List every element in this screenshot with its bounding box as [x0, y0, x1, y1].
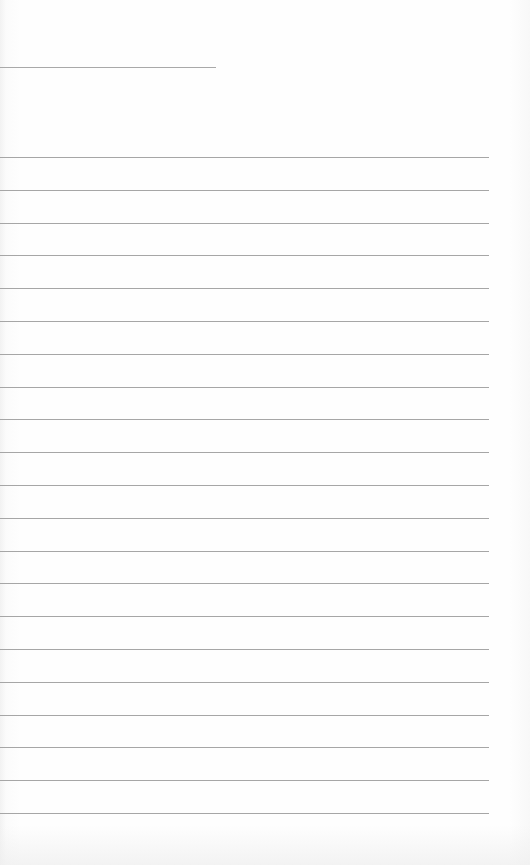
- ruled-line: [0, 288, 489, 289]
- ruled-line: [0, 255, 489, 256]
- ruled-line: [0, 452, 489, 453]
- ruled-line: [0, 747, 489, 748]
- ruled-line: [0, 157, 489, 158]
- ruled-line: [0, 780, 489, 781]
- ruled-line: [0, 583, 489, 584]
- ruled-line: [0, 551, 489, 552]
- ruled-line: [0, 616, 489, 617]
- ruled-line: [0, 682, 489, 683]
- header-line: [0, 67, 216, 68]
- ruled-line: [0, 354, 489, 355]
- ruled-line: [0, 813, 489, 814]
- ruled-line: [0, 649, 489, 650]
- ruled-line: [0, 321, 489, 322]
- ruled-line: [0, 485, 489, 486]
- ruled-line: [0, 190, 489, 191]
- ruled-line: [0, 518, 489, 519]
- ruled-line: [0, 715, 489, 716]
- ruled-line: [0, 419, 489, 420]
- ruled-line: [0, 223, 489, 224]
- bottom-shadow: [0, 825, 530, 865]
- ruled-line: [0, 387, 489, 388]
- lined-paper-page: [0, 0, 530, 865]
